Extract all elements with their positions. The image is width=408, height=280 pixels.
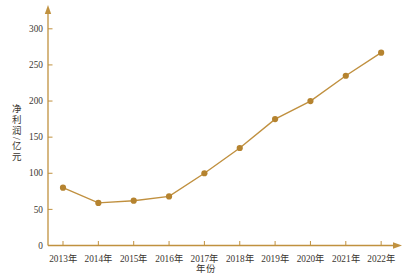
data-point-marker <box>131 198 137 204</box>
data-point-marker <box>166 193 172 199</box>
x-tick-label: 2019年 <box>261 253 289 264</box>
data-point-marker <box>201 170 207 176</box>
y-tick-label: 0 <box>38 241 43 251</box>
y-tick-label: 150 <box>29 132 43 142</box>
x-axis-label: 年份 <box>196 261 216 275</box>
line-chart-figure: 0501001502002503002013年2014年2015年2016年20… <box>0 0 408 280</box>
y-tick-label: 50 <box>34 205 44 215</box>
x-tick-label: 2015年 <box>120 253 148 264</box>
data-point-marker <box>272 116 278 122</box>
y-axis-label: 净利润/亿元 <box>9 104 23 163</box>
x-tick-label: 2020年 <box>297 253 325 264</box>
data-point-marker <box>60 185 66 191</box>
x-tick-label: 2022年 <box>367 253 395 264</box>
x-tick-label: 2018年 <box>226 253 254 264</box>
data-point-marker <box>378 50 384 56</box>
data-point-marker <box>237 145 243 151</box>
y-tick-label: 100 <box>29 168 43 178</box>
data-point-marker <box>95 200 101 206</box>
y-tick-label: 300 <box>29 24 43 34</box>
x-axis-arrow-icon <box>393 242 402 248</box>
y-axis-arrow-icon <box>45 5 51 14</box>
series-line <box>63 53 381 203</box>
y-tick-label: 200 <box>29 96 43 106</box>
x-tick-label: 2016年 <box>155 253 183 264</box>
chart-canvas: 0501001502002503002013年2014年2015年2016年20… <box>0 0 408 280</box>
y-tick-label: 250 <box>29 60 43 70</box>
data-point-marker <box>307 98 313 104</box>
x-tick-label: 2014年 <box>85 253 113 264</box>
x-tick-label: 2013年 <box>49 253 77 264</box>
data-point-marker <box>343 73 349 79</box>
x-tick-label: 2021年 <box>332 253 360 264</box>
